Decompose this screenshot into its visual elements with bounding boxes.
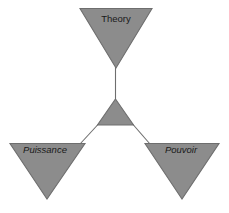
node-pouvoir[interactable]: Pouvoir	[145, 144, 219, 200]
node-puissance[interactable]: Puissance	[10, 144, 85, 200]
node-theory-label: Theory	[101, 13, 131, 24]
diagram-canvas: Theory Puissance Pouvoir	[0, 0, 229, 213]
triad-diagram: Theory Puissance Pouvoir	[0, 0, 229, 213]
connector-center-to-puissance	[80, 125, 98, 145]
node-puissance-label: Puissance	[23, 144, 67, 155]
connector-center-to-pouvoir	[133, 125, 150, 145]
node-pouvoir-label: Pouvoir	[165, 144, 198, 155]
node-center-triangle[interactable]	[98, 99, 134, 125]
node-center[interactable]	[98, 99, 134, 125]
node-theory[interactable]: Theory	[80, 9, 152, 69]
